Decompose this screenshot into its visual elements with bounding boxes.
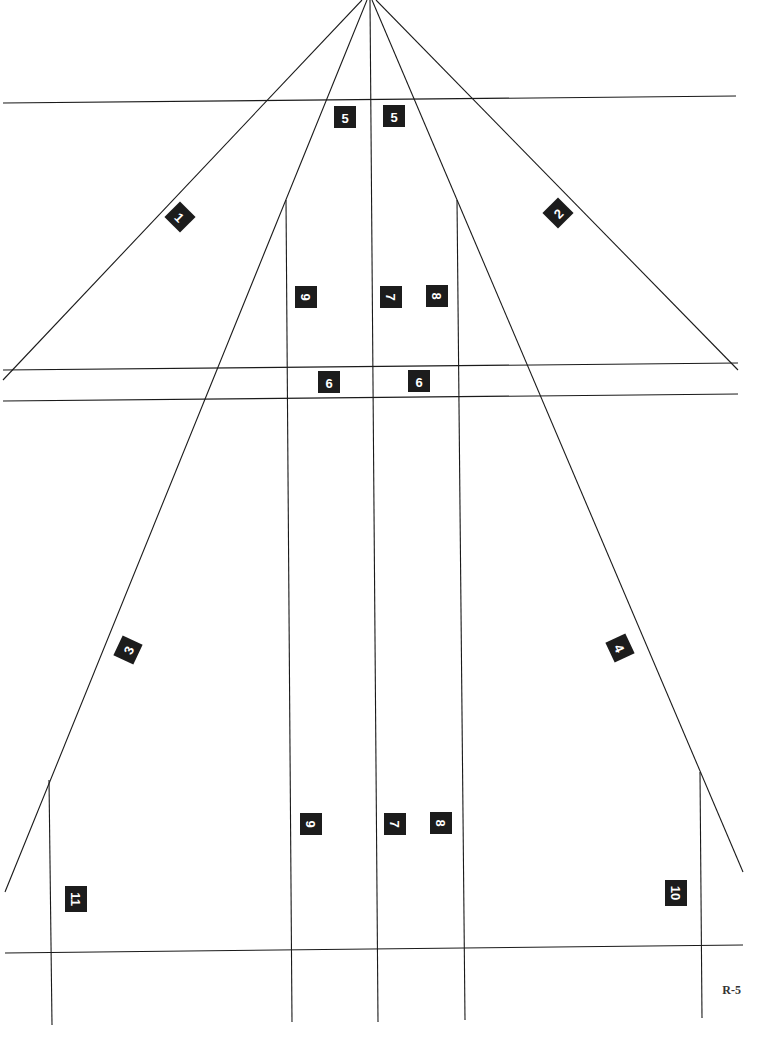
svg-text:9: 9 [298, 293, 313, 300]
number-badge: 6 [318, 371, 340, 393]
line-h-mid2 [3, 394, 738, 401]
number-badge: 9 [295, 286, 317, 308]
svg-text:9: 9 [303, 820, 318, 827]
number-badge: 5 [334, 106, 356, 128]
svg-text:6: 6 [325, 376, 332, 391]
template-diagram: 551297866349781110 R-5 [0, 0, 761, 1049]
svg-text:7: 7 [387, 820, 402, 827]
svg-text:8: 8 [433, 819, 448, 826]
svg-text:5: 5 [341, 111, 348, 126]
number-badge: 9 [300, 813, 322, 835]
svg-text:5: 5 [390, 110, 397, 125]
line-center [370, 0, 378, 1022]
line-h-mid1 [3, 363, 738, 370]
line-v-right-inner [457, 200, 465, 1020]
number-badge: 10 [665, 880, 687, 906]
page-label: R-5 [722, 983, 741, 998]
svg-text:7: 7 [383, 293, 398, 300]
line-ray-1 [3, 0, 362, 380]
line-ray-2 [376, 0, 738, 370]
number-badge: 8 [426, 285, 448, 307]
svg-text:8: 8 [429, 292, 444, 299]
svg-text:11: 11 [68, 892, 83, 906]
svg-text:6: 6 [415, 375, 422, 390]
svg-text:10: 10 [668, 886, 683, 900]
line-ray-4 [372, 0, 743, 872]
number-badge: 1 [164, 201, 195, 232]
number-badge: 8 [430, 812, 452, 834]
number-badge: 7 [384, 813, 406, 835]
number-badge: 6 [408, 370, 430, 392]
line-v-left-outer [49, 780, 52, 1025]
line-v-right-outer [700, 772, 702, 1018]
line-h-bottom [5, 945, 743, 953]
number-badge: 7 [380, 286, 402, 308]
line-ray-3 [5, 0, 367, 892]
line-v-left-inner [286, 200, 292, 1022]
fold-lines: 551297866349781110 [0, 0, 761, 1049]
number-badge: 3 [113, 635, 142, 664]
number-badge: 11 [65, 886, 87, 912]
line-h-top [3, 96, 736, 103]
number-badge: 4 [605, 633, 634, 662]
number-badge: 2 [542, 197, 573, 228]
number-badge: 5 [383, 105, 405, 127]
